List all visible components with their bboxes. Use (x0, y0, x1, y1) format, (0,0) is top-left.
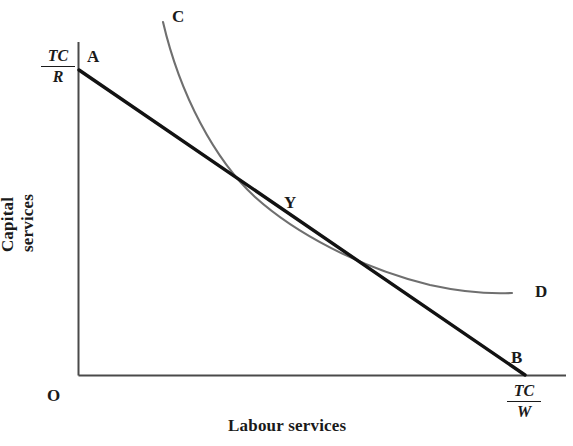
plot-canvas (0, 0, 573, 446)
y-axis-title: Capital services (0, 194, 38, 252)
y-intercept-denominator: R (41, 67, 75, 86)
curve-label-d: D (535, 283, 547, 300)
y-intercept-fraction: TC R (41, 47, 75, 86)
y-intercept-numerator: TC (41, 47, 75, 67)
x-axis-title: Labour services (228, 417, 346, 434)
x-intercept-numerator: TC (507, 382, 541, 402)
origin-label: O (47, 387, 60, 404)
isocost-line (79, 70, 525, 375)
point-label-b: B (511, 349, 522, 366)
y-axis-title-wrap: Capital services (4, 138, 32, 308)
point-label-y: Y (284, 194, 296, 211)
x-intercept-fraction: TC W (507, 382, 541, 421)
point-label-a: A (87, 48, 99, 65)
isoquant-isocost-diagram: A B Y C D O TC R TC W Capital services L… (0, 0, 573, 446)
x-intercept-denominator: W (507, 402, 541, 421)
isoquant-curve (163, 22, 512, 293)
curve-label-c: C (172, 8, 184, 25)
